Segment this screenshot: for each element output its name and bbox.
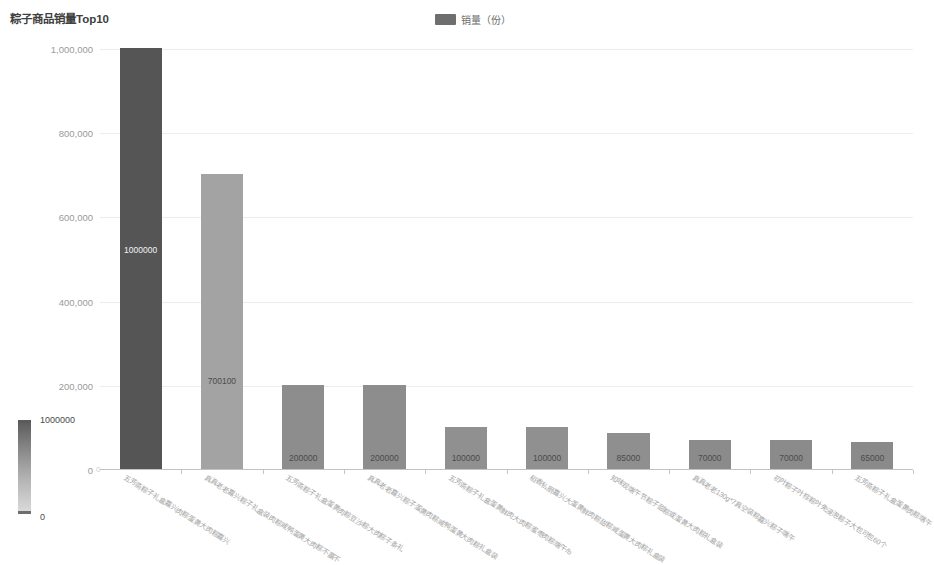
bar-rect[interactable]: 70000 [689, 440, 731, 469]
bar-value-label: 200000 [363, 453, 405, 463]
bar-rect[interactable]: 70000 [770, 440, 812, 469]
bar-value-label: 85000 [607, 453, 649, 463]
x-axis-tick [425, 470, 426, 474]
bar-value-label: 100000 [445, 453, 487, 463]
bar-item[interactable]: 85000 [607, 433, 649, 469]
bar-item[interactable]: 100000 [526, 427, 568, 469]
y-axis-tick-label: 0 [88, 465, 93, 476]
bar-item[interactable]: 70000 [689, 440, 731, 469]
bar-item[interactable]: 70000 [770, 440, 812, 469]
x-axis-category-label: 五芳斋粽子礼盒蛋黄肉粽端午 [853, 472, 934, 528]
bar-item[interactable]: 100000 [445, 427, 487, 469]
bar-item[interactable]: 1000000 [120, 48, 162, 469]
axis-origin-marker: 0 [96, 465, 100, 474]
legend-item-label[interactable]: 销量（份） [461, 12, 511, 27]
y-axis-tick-label: 400,000 [59, 296, 93, 307]
x-axis-category-label: 真真老老嘉兴粽子礼盒装肉粽咸鸭蛋黄大肉粽不赢不 [203, 472, 343, 565]
x-axis-tick [832, 470, 833, 474]
x-axis-tick [507, 470, 508, 474]
bar-value-label: 700100 [201, 376, 243, 386]
y-axis-tick-label: 200,000 [59, 380, 93, 391]
x-axis-category-label: 稻香私厨嘉兴大蛋黄鲜肉粽甜粽咸蛋黄大肉粽礼盒装 [528, 472, 668, 565]
bar-value-label: 70000 [689, 453, 731, 463]
x-axis-tick [263, 470, 264, 474]
chart-legend[interactable]: 销量（份） [432, 11, 514, 28]
bar-rect[interactable]: 1000000 [120, 48, 162, 469]
bar-item[interactable]: 200000 [282, 385, 324, 469]
bar-rect[interactable]: 200000 [282, 385, 324, 469]
x-axis-tick [181, 470, 182, 474]
bar-value-label: 1000000 [120, 245, 162, 255]
plot-area: 0200,000400,000600,000800,0001,000,000 1… [100, 49, 913, 470]
bar-rect[interactable]: 65000 [851, 442, 893, 469]
x-axis-category-label: 真真老老嘉兴粽子蛋黄肉粽咸鸭蛋黄大肉粽礼盒装 [365, 472, 499, 561]
bar-value-label: 70000 [770, 453, 812, 463]
bar-rect[interactable]: 700100 [201, 174, 243, 469]
bar-rect[interactable]: 100000 [526, 427, 568, 469]
visual-map-legend[interactable]: 1000000 0 [18, 414, 88, 520]
x-axis-tick [750, 470, 751, 474]
bar-value-label: 200000 [282, 453, 324, 463]
visual-map-gradient-bar[interactable] [18, 420, 31, 514]
bar-item[interactable]: 200000 [363, 385, 405, 469]
x-axis-tick [913, 470, 914, 474]
y-axis-tick-label: 1,000,000 [51, 44, 93, 55]
bar-rect[interactable]: 200000 [363, 385, 405, 469]
bar-item[interactable]: 65000 [851, 442, 893, 469]
bar-rect[interactable]: 85000 [607, 433, 649, 469]
x-axis-tick [669, 470, 670, 474]
bar-series: 1000000700100200000200000100000100000850… [100, 49, 913, 469]
y-axis-tick-label: 600,000 [59, 212, 93, 223]
legend-swatch-icon [435, 14, 456, 25]
bar-value-label: 100000 [526, 453, 568, 463]
x-axis-tick [588, 470, 589, 474]
visual-map-min-label: 0 [40, 512, 45, 522]
bar-value-label: 65000 [851, 453, 893, 463]
y-axis-tick-label: 800,000 [59, 128, 93, 139]
x-axis-tick [344, 470, 345, 474]
visual-map-max-label: 1000000 [40, 415, 75, 425]
bar-rect[interactable]: 100000 [445, 427, 487, 469]
page-title: 粽子商品销量Top10 [10, 10, 109, 26]
bar-item[interactable]: 700100 [201, 174, 243, 469]
